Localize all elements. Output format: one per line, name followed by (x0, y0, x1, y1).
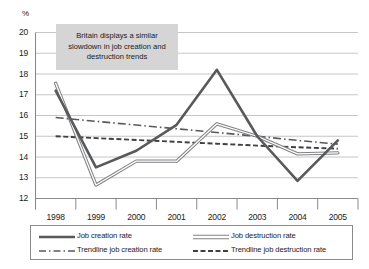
legend-swatch-dash-dot-icon (37, 243, 77, 255)
legend-label: Job destruction rate (231, 231, 296, 240)
legend-label: Trendline job creation rate (77, 245, 162, 254)
legend-swatch-solid-hollow-icon (191, 229, 231, 241)
legend-swatch-dashed-icon (191, 243, 231, 255)
legend-swatch-solid-dark-icon (37, 229, 77, 241)
legend-item-trendline-job-creation-rate[interactable]: Trendline job creation rate (37, 242, 192, 256)
annotation-callout: Britain displays a similar slowdown in j… (56, 24, 178, 70)
legend-item-trendline-job-destruction-rate[interactable]: Trendline job destruction rate (191, 242, 349, 256)
legend-label: Trendline job destruction rate (231, 245, 326, 254)
chart-legend: Job creation rate Job destruction rate T… (30, 225, 353, 260)
chart-container: % 201918171615141312 1998199920002001200… (0, 0, 369, 269)
annotation-text: Britain displays a similar slowdown in j… (56, 31, 178, 63)
legend-item-job-creation-rate[interactable]: Job creation rate (37, 228, 192, 242)
legend-item-job-destruction-rate[interactable]: Job destruction rate (191, 228, 349, 242)
legend-label: Job creation rate (77, 231, 132, 240)
data-series-layer (56, 70, 338, 185)
